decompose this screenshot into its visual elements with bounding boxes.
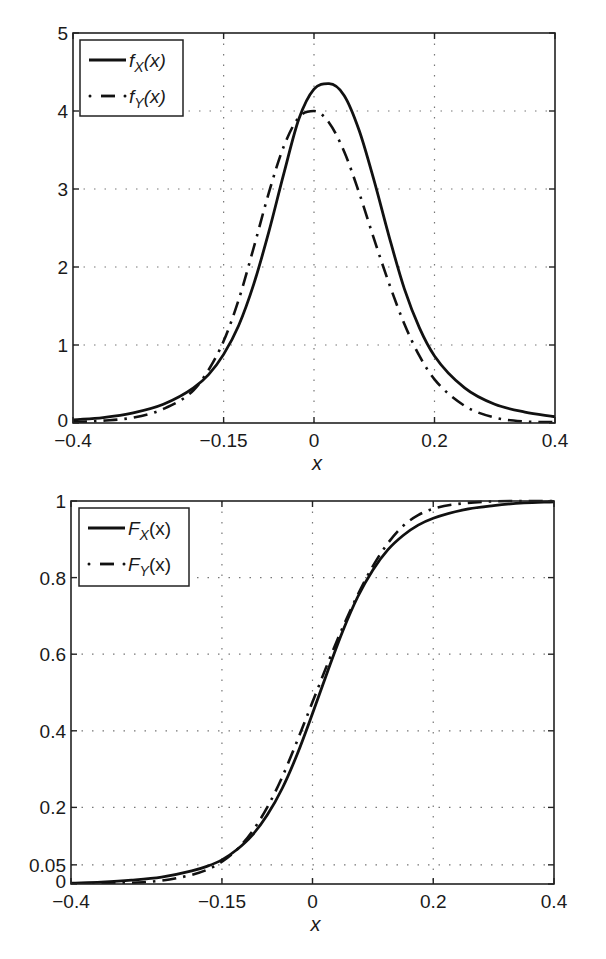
- x-tick-label: 0.4: [541, 891, 568, 912]
- y-tick-label: 1: [57, 335, 68, 356]
- pdf-plot: −0.4−0.1500.20.4012345xfX(x)fY(x): [54, 23, 568, 474]
- y-tick-label: 1: [55, 491, 66, 512]
- x-tick-label: 0.2: [420, 891, 446, 912]
- x-tick-label: −0.4: [52, 891, 90, 912]
- legend: fX(x)fY(x): [80, 40, 183, 116]
- y-tick-label: 0.2: [40, 797, 66, 818]
- y-tick-label: 0.05: [29, 855, 66, 876]
- cdf-plot: −0.4−0.1500.20.400.050.20.40.60.81xFX(x)…: [29, 491, 568, 935]
- x-tick-label: 0.4: [542, 430, 569, 451]
- y-tick-label: 0.6: [40, 644, 66, 665]
- x-tick-label: 0.2: [421, 430, 447, 451]
- x-tick-label: −0.15: [198, 891, 246, 912]
- y-tick-label: 2: [57, 257, 68, 278]
- x-tick-label: 0: [307, 891, 318, 912]
- x-axis-label: x: [310, 913, 322, 935]
- y-tick-label: 0.8: [40, 568, 66, 589]
- series-curves: [73, 84, 555, 423]
- figure: −0.4−0.1500.20.4012345xfX(x)fY(x)−0.4−0.…: [0, 0, 606, 959]
- x-tick-label: −0.15: [200, 430, 248, 451]
- y-tick-label: 0.4: [40, 721, 67, 742]
- x-tick-label: 0: [309, 430, 320, 451]
- x-tick-label: −0.4: [54, 430, 92, 451]
- y-tick-label: 4: [57, 101, 68, 122]
- legend: FX(x)FY(x): [79, 508, 189, 586]
- x-axis-label: x: [311, 452, 323, 474]
- y-tick-label: 3: [57, 179, 68, 200]
- y-tick-label: 5: [57, 23, 68, 44]
- y-tick-label: 0: [57, 410, 68, 431]
